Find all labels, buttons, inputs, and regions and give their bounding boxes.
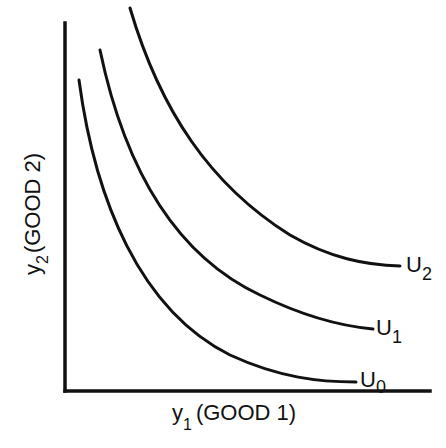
label-u1: U1 — [376, 315, 402, 347]
label-u2: U2 — [406, 252, 432, 284]
curve-u1 — [100, 50, 373, 329]
x-axis-label: y1(GOOD 1) — [172, 400, 296, 433]
indifference-curve-diagram: U0 U1 U2 y1(GOOD 1) y2(GOOD 2) — [0, 0, 446, 448]
curves — [79, 8, 400, 382]
curve-labels: U0 U1 U2 — [360, 252, 432, 397]
curve-u2 — [130, 8, 400, 266]
y-axis-label: y2(GOOD 2) — [20, 153, 51, 275]
